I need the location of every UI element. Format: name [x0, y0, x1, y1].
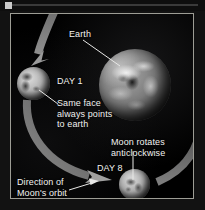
label-earth: Earth [69, 29, 91, 40]
drag-handle-icon[interactable] [5, 2, 12, 9]
top-strip [0, 0, 205, 11]
label-day8: DAY 8 [97, 163, 123, 174]
leader-arrowhead-direction [89, 179, 99, 186]
label-moon-rotates: Moon rotates anticlockwise [111, 137, 165, 158]
diagram-frame: Earth DAY 1 Same face always points to e… [10, 13, 194, 199]
leader-line-same-face [39, 90, 58, 104]
label-orbit-direction: Direction of Moon's orbit [17, 177, 67, 198]
divider-rule [12, 4, 198, 6]
label-day1: DAY 1 [57, 76, 83, 87]
label-same-face: Same face always points to earth [57, 98, 112, 130]
figure-container: Earth DAY 1 Same face always points to e… [0, 0, 205, 210]
leader-line-earth [83, 40, 120, 66]
